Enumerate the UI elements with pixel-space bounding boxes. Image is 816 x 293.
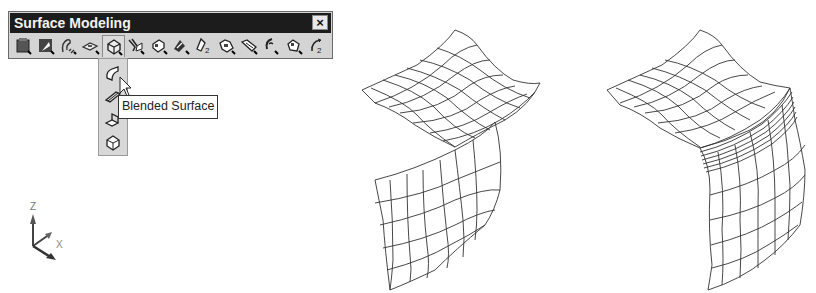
network-surface-icon: 2	[308, 37, 326, 55]
patch-surface-icon	[285, 37, 303, 55]
extend-surface-icon	[240, 37, 258, 55]
blend-surface-flyout-button[interactable]	[102, 35, 125, 57]
revolve-surface-button[interactable]	[57, 35, 80, 57]
loft-surface-icon	[150, 37, 168, 55]
plane-surface-icon	[82, 37, 100, 55]
ucs-axis-icon: Z X	[18, 198, 78, 268]
toolbar-icon-row: 2 2	[12, 35, 329, 57]
toolbar-titlebar[interactable]: Surface Modeling ×	[10, 13, 331, 33]
curve-on-surface-button[interactable]	[261, 35, 284, 57]
extend-surface-button[interactable]	[238, 35, 261, 57]
extrude-surface-button[interactable]	[35, 35, 58, 57]
patch-corner-icon	[104, 134, 122, 152]
toolbar-title: Surface Modeling	[14, 15, 131, 31]
region-button[interactable]	[12, 35, 35, 57]
loft-surface-button[interactable]	[148, 35, 171, 57]
mesh-surface-before-blend	[355, 20, 590, 293]
blend-surface-flyout-icon	[105, 38, 123, 56]
region-icon	[14, 37, 32, 55]
trim-surface-button[interactable]	[215, 35, 238, 57]
plane-surface-button[interactable]	[80, 35, 103, 57]
sweep-surface-button[interactable]	[125, 35, 148, 57]
tooltip: Blended Surface	[118, 95, 218, 119]
ucs-z-label: Z	[30, 201, 36, 212]
surface-modeling-toolbar: Surface Modeling × 2	[8, 11, 333, 59]
sweep-surface-icon	[127, 37, 145, 55]
revolve-surface-icon	[59, 37, 77, 55]
fillet-surface-icon: 2	[195, 37, 213, 55]
extrude-surface-icon	[37, 37, 55, 55]
network-surface-button[interactable]: 2	[306, 35, 329, 57]
fillet-surface-button[interactable]: 2	[193, 35, 216, 57]
patch-corner-button[interactable]	[99, 131, 127, 154]
close-button[interactable]: ×	[312, 15, 328, 30]
svg-text:2: 2	[317, 46, 322, 55]
ucs-x-label: X	[56, 239, 63, 250]
offset-surface-button[interactable]	[170, 35, 193, 57]
mesh-surface-after-blend	[600, 20, 816, 293]
patch-surface-button[interactable]	[283, 35, 306, 57]
offset-surface-icon	[172, 37, 190, 55]
svg-text:2: 2	[205, 46, 210, 55]
trim-surface-icon	[218, 37, 236, 55]
curve-on-surface-icon	[263, 37, 281, 55]
